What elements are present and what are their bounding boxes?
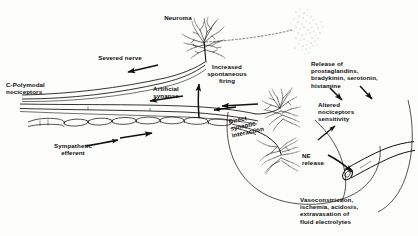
label-severed-nerve: Severed nerve <box>82 54 158 61</box>
neuroma-arborization <box>182 17 225 62</box>
downward-arrow-mediators-left <box>330 88 342 100</box>
leftward-conduction-arrow <box>128 65 158 72</box>
upward-arrow-to-firing <box>198 84 199 118</box>
label-c-polymodal-nociceptors: C-Polymodal nociceptors <box>6 81 70 95</box>
blood-vessel-cut-end <box>341 142 415 182</box>
label-ne-release: NE release <box>302 152 332 166</box>
rightward-efferent-arrow <box>120 133 152 138</box>
label-altered-nociceptors-sensitivity: Altered nociceptors sensitivity <box>318 101 380 123</box>
stippled-ectopic-discharge-cloud <box>289 9 324 55</box>
label-neuroma: Neuroma <box>148 14 208 21</box>
label-vasoconstriction: Vasoconstriction, ischemia, acidosis, ex… <box>300 196 400 225</box>
label-artificial-synapse: Artificial synapse <box>138 85 194 99</box>
leftward-terminal-arrow <box>222 104 258 106</box>
c-fiber-nerve-bundle <box>20 104 258 124</box>
upward-arrow-to-sensitivity <box>318 126 335 140</box>
figure-canvas: Neuroma Severed nerve C-Polymodal nocice… <box>0 0 418 236</box>
label-increased-spontaneous-firing: Increased spontaneous firing <box>198 63 256 85</box>
label-release-of-mediators: Release of prostaglandins, bradykinin, s… <box>311 60 415 89</box>
lower-nerve-terminal-arborization <box>257 131 300 174</box>
label-sympathetic-efferent: Sympathetic efferent <box>38 142 108 156</box>
